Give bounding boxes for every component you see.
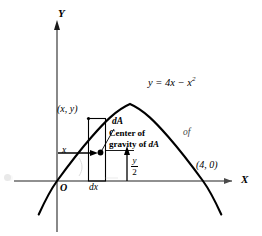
equation-body: y = 4x − x — [148, 77, 192, 88]
scan-artifacts — [7, 158, 118, 181]
curve-point-label: (x, y) — [57, 104, 78, 114]
dx-label: dx — [89, 183, 98, 193]
centroid-dot — [98, 150, 104, 156]
area-element-strip — [89, 119, 106, 182]
half-height-arrow — [106, 146, 135, 181]
y-axis — [54, 20, 60, 232]
half-y-denominator: 2 — [131, 168, 138, 177]
equation-exponent: 2 — [192, 75, 196, 83]
x-distance-label: x — [62, 146, 66, 156]
scan-smudge — [4, 174, 11, 181]
cg-line-2-text: gravity of — [109, 139, 149, 149]
curve-point-marker — [87, 117, 90, 120]
x-axis — [14, 178, 232, 184]
stray-of-mark: of — [183, 128, 190, 138]
half-y-fraction-label: y 2 — [131, 156, 138, 177]
parabola-curve — [39, 104, 222, 215]
cg-line-2-symbol: dA — [149, 139, 160, 149]
x-intercept-label: (4, 0) — [196, 160, 218, 170]
center-of-gravity-label: Center of gravity of dA — [109, 128, 159, 149]
figure-canvas: Y X O y = 4x − x2 (x, y) (4, 0) dA Cente… — [0, 0, 262, 236]
area-element-label: dA — [112, 117, 123, 127]
curve-equation-label: y = 4x − x2 — [148, 76, 195, 88]
y-axis-label: Y — [58, 8, 65, 19]
half-y-numerator: y — [131, 156, 138, 165]
diagram-vector-layer — [0, 0, 262, 236]
origin-label: O — [60, 183, 67, 193]
x-axis-label: X — [241, 174, 248, 185]
cg-line-1: Center of — [109, 128, 145, 138]
